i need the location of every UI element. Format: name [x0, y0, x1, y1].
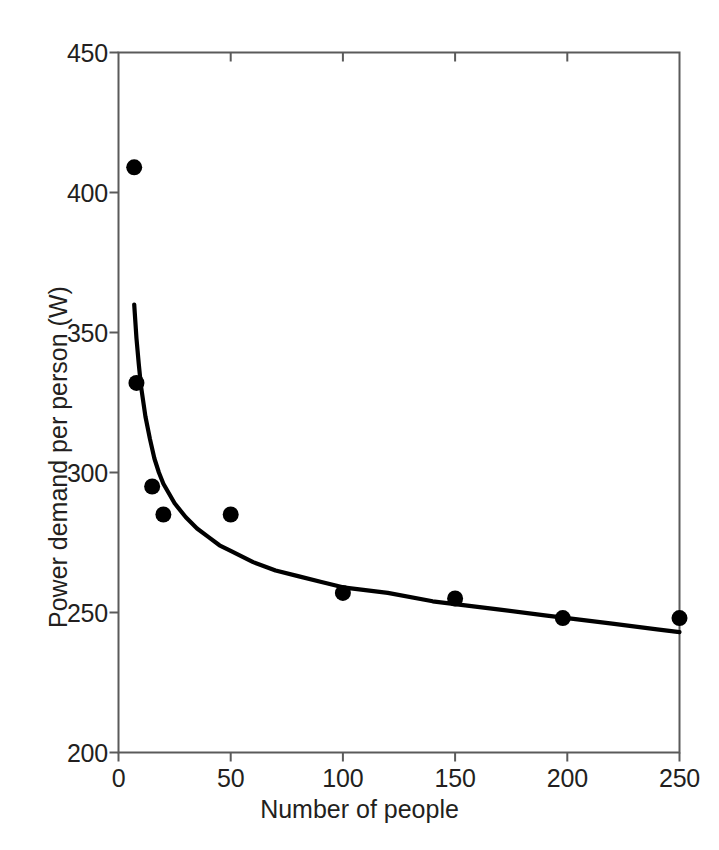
data-point-2 [144, 479, 160, 495]
x-axis-title: Number of people [0, 795, 719, 824]
x-tick-label-50: 50 [217, 764, 244, 793]
data-point-3 [155, 507, 171, 523]
fitted-trend-curve [134, 305, 679, 633]
data-point-8 [672, 610, 688, 626]
x-tick-label-200: 200 [547, 764, 588, 793]
axis-ticks [110, 53, 680, 762]
data-point-1 [128, 375, 144, 391]
y-tick-label-400: 400 [40, 178, 108, 207]
data-point-7 [555, 610, 571, 626]
axes-frame [119, 53, 680, 753]
data-point-0 [126, 159, 142, 175]
scatter-plot-svg [0, 0, 719, 850]
data-point-4 [223, 507, 239, 523]
y-tick-label-200: 200 [40, 738, 108, 767]
figure-canvas: 200250300350400450 050100150200250 Numbe… [0, 0, 719, 850]
x-tick-label-100: 100 [322, 764, 363, 793]
data-point-5 [335, 585, 351, 601]
trend-curve-path [134, 305, 679, 633]
data-point-6 [447, 591, 463, 607]
axes-frame-rect [119, 53, 680, 753]
y-axis-title: Power demand per person (W) [44, 286, 73, 628]
x-tick-label-150: 150 [435, 764, 476, 793]
x-tick-label-250: 250 [659, 764, 700, 793]
y-tick-label-450: 450 [40, 38, 108, 67]
x-tick-label-0: 0 [112, 764, 126, 793]
data-point-markers [126, 159, 687, 626]
